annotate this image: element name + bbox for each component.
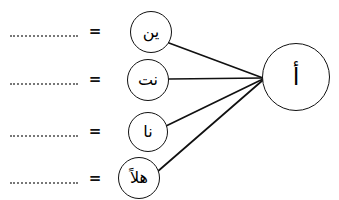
equals-sign-2: = xyxy=(88,72,102,87)
answer-blank-3[interactable] xyxy=(10,133,78,137)
circle-label-yeen: ين xyxy=(143,24,160,40)
answer-blank-2[interactable] xyxy=(10,81,78,85)
circle-alif-hamza[interactable]: أ xyxy=(262,43,330,111)
circle-label-halan: هلاً xyxy=(130,170,148,186)
circle-label-alif-hamza: أ xyxy=(293,65,300,89)
worksheet-canvas: = ين = نت = نا = هلاً أ xyxy=(0,0,339,200)
equals-sign-3: = xyxy=(88,124,102,139)
edge-nt-to-alif xyxy=(169,78,263,79)
edge-yeen-to-alif xyxy=(169,43,263,78)
circle-word-halan[interactable]: هلاً xyxy=(118,157,160,199)
circle-syllable-naa[interactable]: نا xyxy=(128,112,168,152)
edge-naa-to-alif xyxy=(166,79,263,126)
circle-syllable-nt[interactable]: نت xyxy=(127,59,169,101)
equals-sign-1: = xyxy=(88,24,102,39)
edge-halan-to-alif xyxy=(157,80,263,172)
answer-blank-1[interactable] xyxy=(10,33,78,37)
equals-sign-4: = xyxy=(88,171,102,186)
answer-blank-4[interactable] xyxy=(10,180,78,184)
circle-label-naa: نا xyxy=(143,124,152,140)
circle-label-nt: نت xyxy=(138,72,158,88)
circle-syllable-yeen[interactable]: ين xyxy=(130,11,172,53)
